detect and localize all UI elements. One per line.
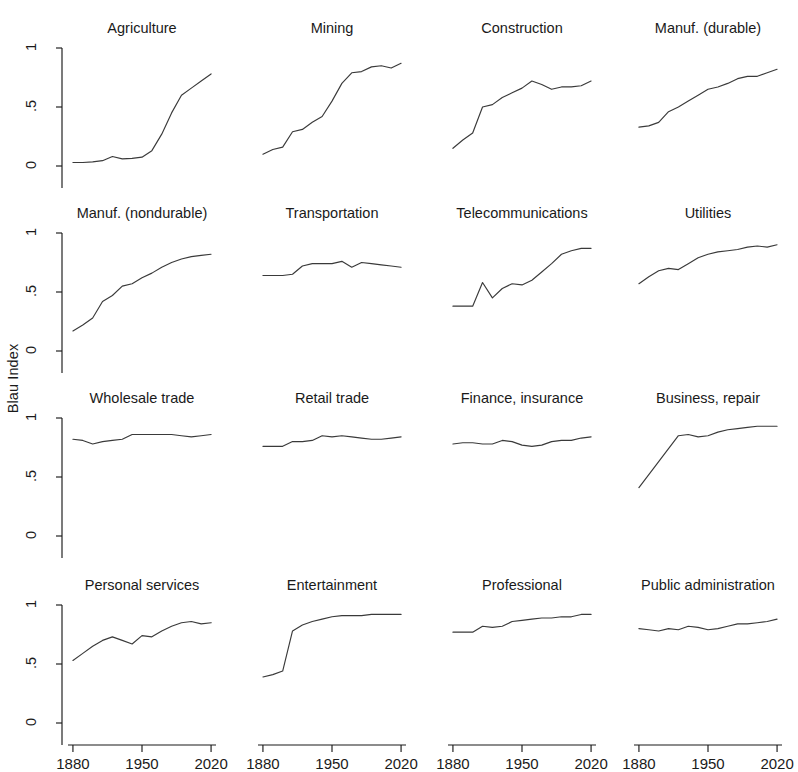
plot-area [600,412,782,572]
panel-title: Wholesale trade [68,390,216,407]
plot-area [224,599,406,759]
x-tick-label: 1950 [495,755,549,772]
data-line [639,245,777,284]
x-tick-label: 2020 [750,755,798,772]
panel-utilities: Utilities [634,205,782,385]
panel-title: Professional [448,577,596,594]
panel-title: Retail trade [258,390,406,407]
data-line [263,614,401,677]
x-tick-label: 1950 [115,755,169,772]
x-tick-label: 1950 [681,755,735,772]
y-tick-label: 0 [23,337,39,363]
panel-business-repair: Business, repair [634,390,782,570]
y-tick-label: .5 [23,93,39,119]
panel-title: Manuf. (nondurable) [68,205,216,222]
panel-title: Agriculture [68,20,216,37]
y-tick-label: 0 [23,152,39,178]
panel-title: Construction [448,20,596,37]
panel-title: Telecommunications [448,205,596,222]
data-line [263,436,401,447]
panel-title: Mining [258,20,406,37]
data-line [639,426,777,487]
y-tick-label: 1 [23,219,39,245]
y-tick-label: .5 [23,278,39,304]
data-line [73,74,211,162]
panel-agriculture: Agriculture0.51 [68,20,216,200]
y-tick-label: 0 [23,709,39,735]
panel-title: Business, repair [634,390,782,407]
plot-area [224,227,406,387]
panel-construction: Construction [448,20,596,200]
x-tick-label: 1880 [46,755,100,772]
plot-area [34,412,216,572]
plot-area [414,599,596,759]
data-line [263,63,401,154]
panel-public-administration: Public administration188019502020 [634,577,782,757]
panel-telecommunications: Telecommunications [448,205,596,385]
panel-mining: Mining [258,20,406,200]
plot-area [414,42,596,202]
panel-title: Manuf. (durable) [634,20,782,37]
data-line [73,435,211,444]
data-line [639,69,777,127]
panel-wholesale-trade: Wholesale trade0.51 [68,390,216,570]
panel-title: Personal services [68,577,216,594]
x-tick-label: 1880 [236,755,290,772]
data-line [73,622,211,661]
panel-personal-services: Personal services0.51188019502020 [68,577,216,757]
y-tick-label: 0 [23,522,39,548]
data-line [639,619,777,631]
panel-title: Entertainment [258,577,406,594]
panel-title: Finance, insurance [448,390,596,407]
x-tick-label: 1880 [612,755,666,772]
plot-area [224,42,406,202]
plot-area [34,227,216,387]
plot-area [34,599,216,759]
panel-title: Public administration [634,577,782,594]
panel-manuf-nondurable: Manuf. (nondurable)0.51 [68,205,216,385]
data-line [453,437,591,446]
plot-area [414,412,596,572]
plot-area [224,412,406,572]
plot-area [600,42,782,202]
panel-finance-insurance: Finance, insurance [448,390,596,570]
panel-title: Utilities [634,205,782,222]
plot-area [34,42,216,202]
data-line [453,81,591,148]
y-tick-label: 1 [23,34,39,60]
y-tick-label: 1 [23,404,39,430]
panel-title: Transportation [258,205,406,222]
x-tick-label: 1950 [305,755,359,772]
panel-manuf-durable: Manuf. (durable) [634,20,782,200]
x-tick-label: 1880 [426,755,480,772]
data-line [73,254,211,331]
y-tick-label: 1 [23,591,39,617]
y-tick-label: .5 [23,463,39,489]
y-tick-label: .5 [23,650,39,676]
panel-retail-trade: Retail trade [258,390,406,570]
panel-transportation: Transportation [258,205,406,385]
plot-area [600,227,782,387]
panel-professional: Professional188019502020 [448,577,596,757]
data-line [453,614,591,632]
plot-area [600,599,782,759]
data-line [453,248,591,306]
data-line [263,261,401,275]
panel-entertainment: Entertainment188019502020 [258,577,406,757]
plot-area [414,227,596,387]
